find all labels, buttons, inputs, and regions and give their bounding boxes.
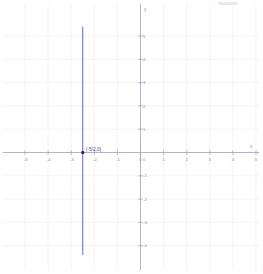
tick-label-x: -1 bbox=[116, 157, 120, 162]
chart-background bbox=[0, 0, 263, 274]
top-artifact bbox=[218, 2, 238, 5]
data-point-marker bbox=[81, 151, 84, 154]
data-point-label: (-5/2,0) bbox=[86, 147, 102, 152]
tick-label-x: -4 bbox=[47, 157, 51, 162]
tick-label-x: -2 bbox=[93, 157, 97, 162]
tick-label-x: -5 bbox=[24, 157, 28, 162]
coordinate-plane-chart: -5-4-3-2-1012345 543210-1-2-3-4 x y (-5/… bbox=[0, 0, 263, 274]
